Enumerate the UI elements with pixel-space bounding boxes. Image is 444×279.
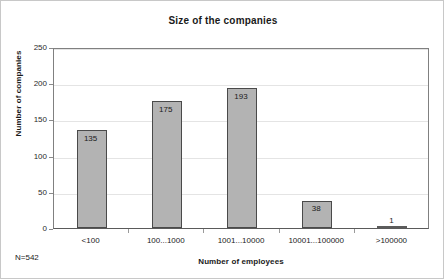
- bar-value-label: 1: [371, 216, 411, 225]
- y-axis-tick-label: 0: [7, 224, 47, 233]
- bar-value-label: 193: [221, 92, 261, 101]
- bar-value-label: 38: [296, 204, 336, 213]
- y-axis-tick-mark: [49, 84, 53, 85]
- bar[interactable]: [152, 101, 182, 228]
- y-axis-tick-mark: [49, 48, 53, 49]
- bar-value-label: 175: [146, 105, 186, 114]
- gridline: [54, 49, 428, 50]
- bar[interactable]: [77, 130, 107, 228]
- bar[interactable]: [377, 226, 407, 229]
- y-axis-tick-label: 50: [7, 188, 47, 197]
- x-axis-tick-mark: [279, 229, 280, 233]
- y-axis-tick-label: 150: [7, 115, 47, 124]
- y-axis-tick-label: 250: [7, 43, 47, 52]
- y-axis-tick-mark: [49, 120, 53, 121]
- bar-value-label: 135: [71, 134, 111, 143]
- bar[interactable]: [227, 88, 257, 228]
- gridline: [54, 85, 428, 86]
- x-axis-tick-mark: [128, 229, 129, 233]
- x-axis-label: Number of employees: [53, 257, 429, 266]
- x-axis-tick-label: >100000: [343, 236, 439, 245]
- y-axis-tick-mark: [49, 157, 53, 158]
- y-axis-label: Number of companies: [14, 19, 23, 169]
- sample-size-note: N=542: [15, 253, 39, 262]
- y-axis-tick-mark: [49, 193, 53, 194]
- y-axis-tick-mark: [49, 229, 53, 230]
- chart-title: Size of the companies: [1, 15, 444, 26]
- x-axis-tick-mark: [203, 229, 204, 233]
- chart-figure: Size of the companies Number of companie…: [0, 0, 444, 279]
- y-axis-tick-label: 200: [7, 79, 47, 88]
- y-axis-tick-label: 100: [7, 152, 47, 161]
- x-axis-tick-mark: [354, 229, 355, 233]
